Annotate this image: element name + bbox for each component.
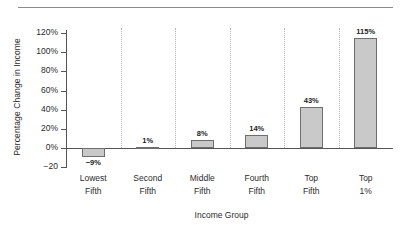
y-axis-tick-label: 40% xyxy=(0,104,58,114)
x-axis-category-label-line: Lowest xyxy=(63,172,123,185)
x-axis-category-label-line: Fifth xyxy=(172,185,232,198)
x-axis-category-label: Top1% xyxy=(336,172,396,197)
y-axis-tick-label: 20% xyxy=(0,123,58,133)
bar xyxy=(82,148,105,157)
bar xyxy=(300,107,323,148)
y-axis-tick xyxy=(61,167,67,168)
y-axis-tick-label: −20 xyxy=(0,161,58,171)
gridline xyxy=(339,28,341,148)
y-axis-tick-label: 60% xyxy=(0,85,58,95)
x-axis-category-label-line: Fifth xyxy=(63,185,123,198)
bar-value-label: −9% xyxy=(63,158,123,167)
x-axis-category-label-line: Fifth xyxy=(281,185,341,198)
chart-figure: Percentage Change in Income 120%100%80%6… xyxy=(0,0,401,231)
y-axis-tick xyxy=(61,91,67,92)
x-axis-category-label-line: Fifth xyxy=(227,185,287,198)
bar-value-label: 1% xyxy=(118,136,178,145)
y-axis-tick xyxy=(61,110,67,111)
bar xyxy=(136,147,159,149)
x-axis-category-label-line: Fifth xyxy=(118,185,178,198)
y-axis-tick xyxy=(61,33,67,34)
y-axis-tick-label: 80% xyxy=(0,65,58,75)
x-axis-category-label: TopFifth xyxy=(281,172,341,197)
bar-value-label: 14% xyxy=(227,124,287,133)
y-axis-tick-label: 0% xyxy=(0,142,58,152)
x-axis-category-label-line: Fourth xyxy=(227,172,287,185)
x-axis-category-label: MiddleFifth xyxy=(172,172,232,197)
bar-value-label: 115% xyxy=(336,27,396,36)
bar-value-label: 43% xyxy=(281,96,341,105)
y-axis-tick xyxy=(61,52,67,53)
x-axis-category-label: SecondFifth xyxy=(118,172,178,197)
y-axis-tick xyxy=(61,71,67,72)
bar xyxy=(191,140,214,148)
x-axis-category-label-line: Middle xyxy=(172,172,232,185)
y-axis-tick-label: 120% xyxy=(0,27,58,37)
x-axis-category-label: FourthFifth xyxy=(227,172,287,197)
gridline xyxy=(121,28,123,148)
y-axis-title: Percentage Change in Income xyxy=(12,17,22,177)
x-axis-title: Income Group xyxy=(0,210,401,220)
x-axis-category-label-line: Second xyxy=(118,172,178,185)
x-axis-zero-baseline xyxy=(66,148,393,149)
x-axis-category-label-line: 1% xyxy=(336,185,396,198)
x-axis-category-label-line: Top xyxy=(281,172,341,185)
x-axis-category-label-line: Top xyxy=(336,172,396,185)
bar xyxy=(245,135,268,148)
top-rule-divider xyxy=(18,7,393,8)
bar xyxy=(354,38,377,148)
y-axis-tick xyxy=(61,129,67,130)
x-axis-category-label: LowestFifth xyxy=(63,172,123,197)
y-axis-tick xyxy=(61,148,67,149)
bar-value-label: 8% xyxy=(172,129,232,138)
y-axis-tick-label: 100% xyxy=(0,46,58,56)
